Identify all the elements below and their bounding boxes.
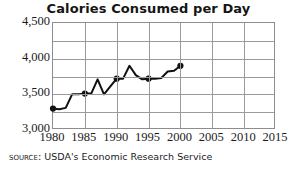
y-axis-tick-label: 4,500: [4, 14, 50, 29]
gridline-horizontal: [53, 41, 274, 42]
chart-figure: Calories Consumed per Day 3,0003,5004,00…: [0, 0, 297, 174]
gridline-horizontal: [53, 59, 274, 60]
gridline-horizontal: [53, 77, 274, 78]
gridline-vertical: [149, 23, 150, 128]
gridline-horizontal: [53, 112, 274, 113]
x-axis-tick-labels: 19801985199019952000200520102015: [0, 130, 297, 148]
gridline-vertical: [85, 23, 86, 128]
y-axis-tick-label: 3,500: [4, 85, 50, 100]
plot-area: [52, 22, 275, 129]
gridline-vertical: [180, 23, 181, 128]
gridline-vertical: [244, 23, 245, 128]
source-label: Source:: [9, 151, 41, 162]
source-text: USDA's Economic Research Service: [44, 151, 212, 162]
gridline-horizontal: [53, 94, 274, 95]
x-axis-tick-label: 2015: [255, 130, 295, 145]
y-axis-tick-label: 4,000: [4, 50, 50, 65]
gridline-vertical: [117, 23, 118, 128]
data-point-marker: [50, 106, 56, 112]
gridline-vertical: [212, 23, 213, 128]
source-note: Source: USDA's Economic Research Service: [9, 151, 212, 162]
